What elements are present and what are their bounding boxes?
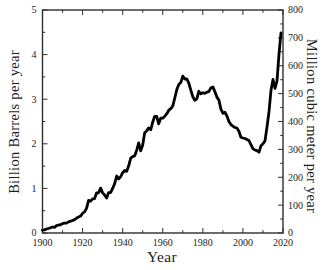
right-tick-label: 300 [288, 144, 303, 155]
x-tick-label: 2020 [273, 237, 293, 248]
left-y-axis-title: Billion Barrels per year [6, 50, 23, 194]
x-tick-label: 1980 [193, 237, 213, 248]
plot-area: 1900192019401960198020002020012345010020… [0, 0, 324, 270]
right-tick-label: 700 [288, 32, 303, 43]
plot-frame [43, 10, 284, 233]
left-tick-label: 0 [32, 227, 37, 238]
right-tick-label: 800 [288, 4, 303, 15]
left-tick-label: 3 [32, 94, 37, 105]
right-tick-label: 100 [288, 200, 303, 211]
right-tick-label: 600 [288, 60, 303, 71]
right-tick-label: 400 [288, 116, 303, 127]
oil-production-chart: 1900192019401960198020002020012345010020… [0, 0, 324, 270]
right-y-axis-title: Million cubic meter per year [303, 39, 320, 213]
left-tick-label: 5 [32, 4, 37, 15]
x-tick-label: 2000 [233, 237, 253, 248]
right-tick-label: 0 [288, 227, 293, 238]
left-tick-label: 2 [32, 138, 37, 149]
x-tick-label: 1960 [153, 237, 173, 248]
production-line [43, 33, 282, 230]
x-tick-label: 1900 [33, 237, 53, 248]
left-tick-label: 4 [32, 49, 37, 60]
x-tick-label: 1920 [73, 237, 93, 248]
right-tick-label: 200 [288, 172, 303, 183]
x-tick-label: 1940 [113, 237, 133, 248]
left-tick-label: 1 [32, 183, 37, 194]
x-axis-title: Year [147, 248, 177, 266]
right-tick-label: 500 [288, 88, 303, 99]
